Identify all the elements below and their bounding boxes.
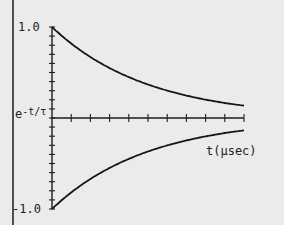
exponential-decay-chart: 1.0 -1.0 e-t/τ t(µsec) bbox=[0, 0, 284, 225]
y-tick-label-top: 1.0 bbox=[18, 21, 40, 33]
y-axis-label-exponent: -t/τ bbox=[22, 106, 46, 117]
decay-curve-negative bbox=[52, 130, 244, 209]
decay-curve-positive bbox=[52, 27, 244, 106]
y-axis-label: e-t/τ bbox=[15, 108, 46, 120]
y-tick-label-bottom: -1.0 bbox=[12, 203, 41, 215]
x-axis-label: t(µsec) bbox=[206, 145, 257, 157]
